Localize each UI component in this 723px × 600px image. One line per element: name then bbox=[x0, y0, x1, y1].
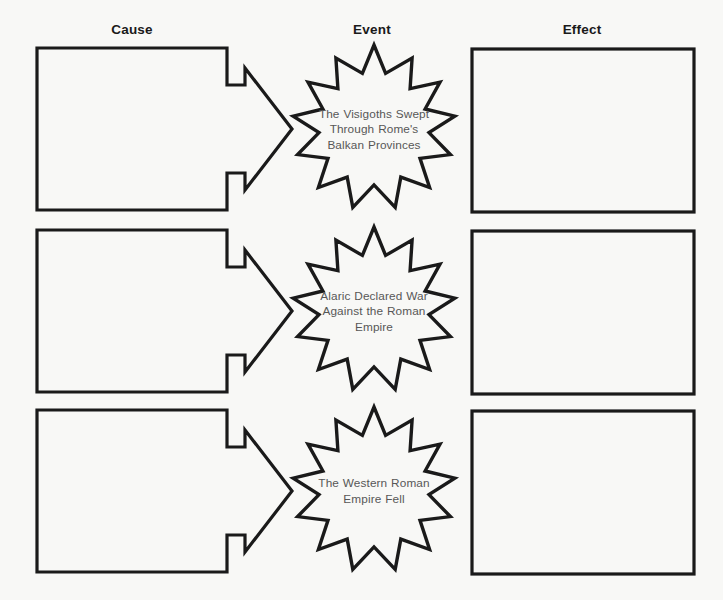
event-starburst[interactable]: Alaric Declared War Against the Roman Em… bbox=[284, 222, 464, 402]
cause-text-area[interactable] bbox=[44, 54, 220, 194]
column-header-effect: Effect bbox=[563, 22, 602, 37]
cause-text-area[interactable] bbox=[44, 236, 220, 376]
starburst-shape bbox=[284, 40, 464, 220]
organizer-row: The Western Roman Empire Fell bbox=[0, 402, 723, 580]
column-header-event: Event bbox=[353, 22, 391, 37]
effect-text-area[interactable] bbox=[482, 240, 684, 378]
cause-box-with-arrow[interactable] bbox=[30, 40, 300, 218]
organizer-row: Alaric Declared War Against the Roman Em… bbox=[0, 222, 723, 400]
graphic-organizer-worksheet: Cause Event Effect The Visigoths Swept T… bbox=[0, 0, 723, 600]
cause-box-with-arrow[interactable] bbox=[30, 222, 300, 400]
effect-text-area[interactable] bbox=[482, 58, 684, 196]
effect-box[interactable] bbox=[468, 44, 698, 216]
effect-box[interactable] bbox=[468, 406, 698, 578]
organizer-row: The Visigoths Swept Through Rome's Balka… bbox=[0, 40, 723, 220]
cause-box-with-arrow[interactable] bbox=[30, 402, 300, 580]
event-starburst[interactable]: The Western Roman Empire Fell bbox=[284, 402, 464, 582]
effect-box[interactable] bbox=[468, 226, 698, 398]
starburst-shape bbox=[284, 222, 464, 402]
starburst-shape bbox=[284, 402, 464, 582]
column-header-cause: Cause bbox=[111, 22, 153, 37]
event-starburst[interactable]: The Visigoths Swept Through Rome's Balka… bbox=[284, 40, 464, 220]
effect-text-area[interactable] bbox=[482, 420, 684, 558]
cause-text-area[interactable] bbox=[44, 416, 220, 556]
